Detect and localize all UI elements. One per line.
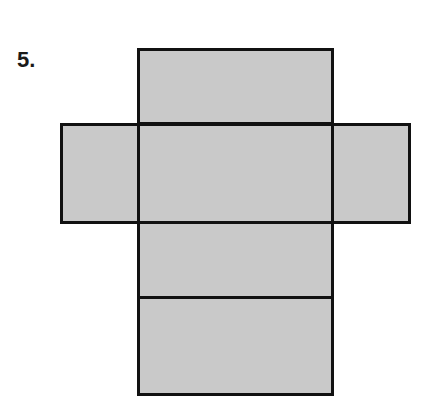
left-face bbox=[60, 123, 140, 224]
right-face bbox=[331, 123, 411, 224]
bottom-face bbox=[137, 296, 334, 396]
top-face bbox=[137, 48, 334, 125]
lower-face bbox=[137, 221, 334, 299]
center-face bbox=[137, 123, 334, 224]
problem-number: 5. bbox=[17, 47, 35, 73]
